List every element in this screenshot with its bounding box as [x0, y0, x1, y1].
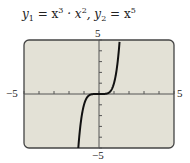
- y-max-label: 5: [95, 27, 101, 39]
- x-max-label: 5: [177, 87, 183, 99]
- y-min-label: −5: [92, 149, 104, 161]
- plot-area: [0, 0, 190, 163]
- x-min-label: −5: [6, 87, 18, 99]
